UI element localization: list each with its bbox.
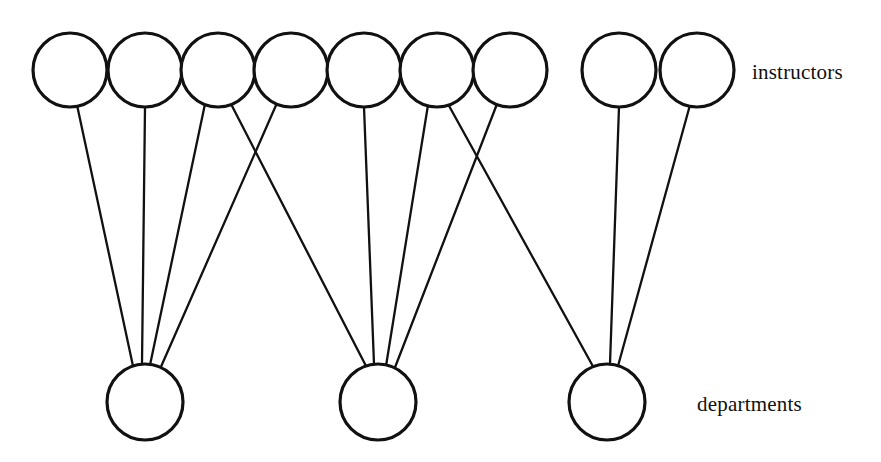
- node-department-d2: [340, 364, 416, 440]
- graph-edge: [142, 107, 145, 364]
- node-instructor-i6: [400, 33, 474, 107]
- graph-edge: [77, 105, 133, 366]
- graph-edge: [394, 104, 497, 370]
- node-instructor-i8: [582, 33, 656, 107]
- graph-edge: [610, 107, 619, 364]
- node-instructor-i9: [660, 33, 734, 107]
- instructors-row-label: instructors: [752, 60, 843, 85]
- graph-edge: [386, 105, 428, 366]
- node-department-d3: [569, 364, 645, 440]
- graph-edge: [448, 104, 595, 370]
- graph-edge: [618, 105, 690, 366]
- graph-edge: [150, 104, 205, 365]
- node-instructor-i2: [108, 33, 182, 107]
- graph-edge: [364, 107, 374, 364]
- node-instructor-i4: [254, 33, 328, 107]
- node-instructor-i1: [33, 33, 107, 107]
- node-instructor-i3: [181, 33, 255, 107]
- nodes-layer: [33, 33, 734, 440]
- edges-layer: [77, 103, 690, 370]
- node-instructor-i5: [327, 33, 401, 107]
- node-instructor-i7: [473, 33, 547, 107]
- bipartite-graph-diagram: instructors departments: [0, 0, 881, 462]
- node-department-d1: [107, 364, 183, 440]
- graph-edge: [231, 104, 366, 366]
- departments-row-label: departments: [697, 392, 802, 417]
